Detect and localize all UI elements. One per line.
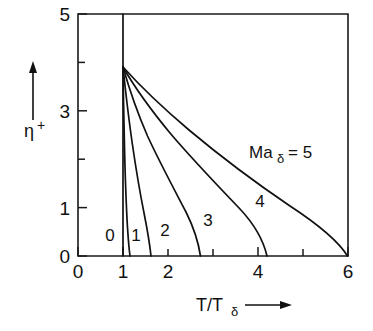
data-curves — [123, 14, 348, 256]
legend-ma-text: Ma — [249, 143, 273, 162]
y-axis-ticks — [78, 14, 87, 256]
x-label-4: 4 — [253, 261, 264, 282]
x-axis-title-subscript: δ — [231, 304, 238, 319]
legend-ma-subscript: δ — [277, 151, 284, 166]
curve-label-1: 1 — [131, 226, 140, 245]
up-arrow-icon — [29, 61, 37, 73]
curve-label-3: 3 — [203, 211, 212, 230]
x-label-2: 2 — [163, 261, 174, 282]
x-axis-title: T/T — [196, 295, 223, 315]
y-label-3: 3 — [59, 101, 70, 122]
legend-annotation: Ma δ = 5 — [249, 143, 312, 166]
figure-root: 0 1 3 5 0 1 2 4 6 η + T/T δ — [0, 0, 373, 331]
y-label-1: 1 — [59, 198, 70, 219]
curve-labels: 0 1 2 3 4 — [105, 192, 264, 245]
y-axis-title: η — [24, 121, 34, 141]
curve-ma-4 — [123, 67, 267, 256]
y-label-5: 5 — [59, 4, 70, 25]
legend-ma-value: = 5 — [288, 143, 312, 162]
curve-label-4: 4 — [255, 192, 264, 211]
y-label-0: 0 — [59, 246, 70, 267]
curve-label-2: 2 — [160, 221, 169, 240]
y-axis-title-superscript: + — [37, 117, 45, 133]
x-label-1: 1 — [118, 261, 129, 282]
x-axis-labels: 0 1 2 4 6 — [73, 261, 354, 282]
x-label-6: 6 — [343, 261, 354, 282]
curve-ma-5 — [123, 67, 348, 256]
y-axis-title-group: η + — [24, 61, 45, 141]
right-arrow-icon — [280, 301, 292, 309]
y-axis-labels: 0 1 3 5 — [59, 4, 70, 267]
x-axis-ticks — [78, 247, 348, 256]
x-label-0: 0 — [73, 261, 84, 282]
chart-canvas: 0 1 3 5 0 1 2 4 6 η + T/T δ — [0, 0, 373, 331]
curve-label-0: 0 — [105, 226, 114, 245]
plot-frame — [78, 14, 348, 256]
x-axis-title-group: T/T δ — [196, 295, 292, 319]
